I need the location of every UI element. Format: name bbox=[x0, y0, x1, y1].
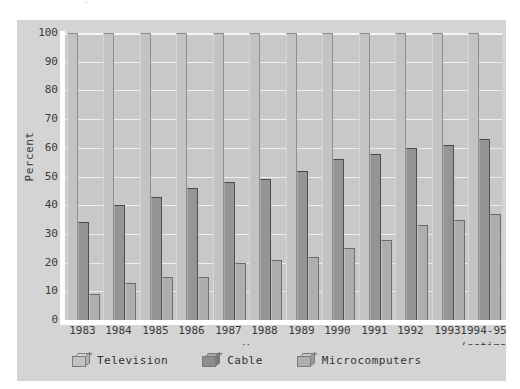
bar bbox=[406, 148, 417, 320]
bar bbox=[370, 154, 381, 320]
bar bbox=[417, 225, 428, 320]
y-tick-label: 40 bbox=[28, 199, 58, 210]
bar bbox=[260, 179, 271, 320]
legend-item-label: Cable bbox=[227, 354, 263, 367]
y-tick-label: 10 bbox=[28, 285, 58, 296]
bar bbox=[381, 240, 392, 320]
legend-swatch-icon bbox=[202, 353, 220, 367]
bar bbox=[443, 145, 454, 320]
cropped-title-remnant: " bbox=[84, 0, 204, 10]
y-axis-label: Percent bbox=[23, 117, 36, 197]
bar bbox=[78, 222, 89, 320]
bar bbox=[479, 139, 490, 320]
bar bbox=[213, 33, 224, 320]
legend-item-label: Television bbox=[97, 354, 168, 367]
bar bbox=[176, 33, 187, 320]
bar bbox=[187, 188, 198, 320]
bar bbox=[67, 33, 78, 320]
bar bbox=[468, 33, 479, 320]
bar bbox=[271, 260, 282, 320]
y-tick-label: 100 bbox=[28, 27, 58, 38]
bar bbox=[114, 205, 125, 320]
bar bbox=[235, 263, 246, 320]
bar bbox=[151, 197, 162, 320]
bar bbox=[395, 33, 406, 320]
bar bbox=[333, 159, 344, 320]
y-tick-label: 80 bbox=[28, 84, 58, 95]
bar bbox=[454, 220, 465, 320]
plot-area bbox=[64, 33, 502, 320]
bar bbox=[286, 33, 297, 320]
bar bbox=[198, 277, 209, 320]
bar bbox=[103, 33, 114, 320]
legend-item-label: Microcomputers bbox=[322, 354, 422, 367]
bar bbox=[162, 277, 173, 320]
legend-item[interactable]: Cable bbox=[202, 353, 263, 367]
y-tick-label: 30 bbox=[28, 228, 58, 239]
legend-item[interactable]: Television bbox=[72, 353, 168, 367]
bar bbox=[89, 294, 100, 320]
bar bbox=[322, 33, 333, 320]
chart-panel: 1009080706050403020100 Percent 198319841… bbox=[17, 20, 506, 381]
y-tick-label: 90 bbox=[28, 56, 58, 67]
bar bbox=[125, 283, 136, 320]
legend-swatch-icon bbox=[297, 353, 315, 367]
bar bbox=[140, 33, 151, 320]
legend-item[interactable]: Microcomputers bbox=[297, 353, 422, 367]
bar bbox=[308, 257, 319, 320]
bar bbox=[432, 33, 443, 320]
chart-legend: Television Cable Microcomputers bbox=[17, 345, 506, 375]
x-axis-ticks: 1983198419851986198719881989199019911992… bbox=[64, 324, 502, 340]
bar bbox=[224, 182, 235, 320]
bar bbox=[344, 248, 355, 320]
legend-swatch-icon bbox=[72, 353, 90, 367]
bar bbox=[249, 33, 260, 320]
y-axis-line bbox=[60, 31, 65, 325]
bar bbox=[297, 171, 308, 320]
bar bbox=[490, 214, 501, 320]
y-tick-label: 20 bbox=[28, 257, 58, 268]
bar bbox=[359, 33, 370, 320]
